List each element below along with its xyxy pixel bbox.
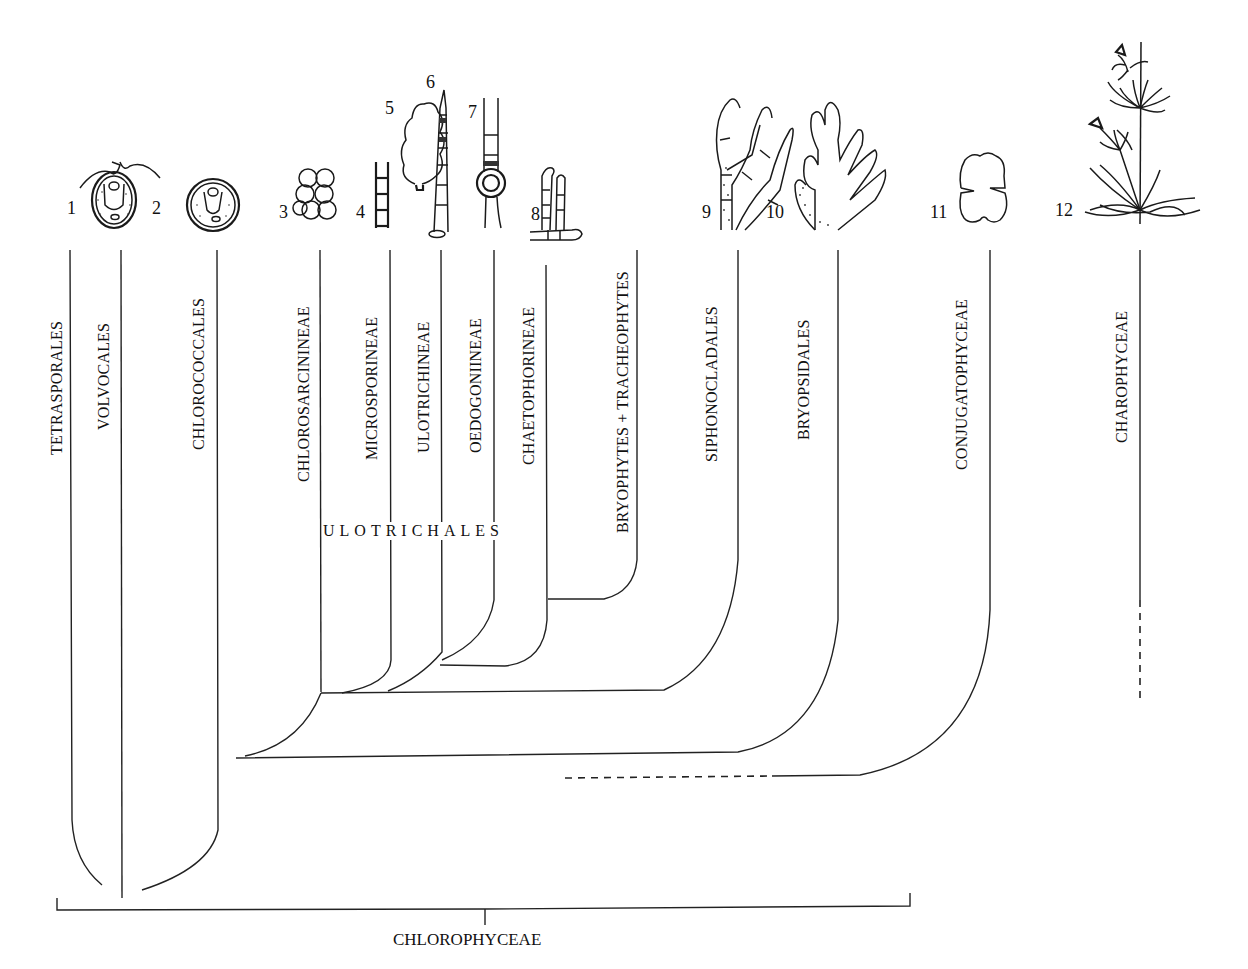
illustration-number-8: 8 xyxy=(531,204,540,225)
taxon-label-chaetophorineae: CHAETOPHORINEAE xyxy=(520,307,538,465)
group-label-chlorophyceae: CHLOROPHYCEAE xyxy=(393,930,541,950)
tree-branches xyxy=(57,250,1140,925)
illustration-number-1: 1 xyxy=(67,198,76,219)
taxon-label-microsporineae: MICROSPORINEAE xyxy=(363,317,381,460)
illustration-number-10: 10 xyxy=(766,202,784,223)
illustration-chlamydomonas-icon xyxy=(80,162,160,228)
branch-chlorosarcinineae xyxy=(320,250,321,692)
illustration-number-6: 6 xyxy=(426,72,435,93)
illustration-number-7: 7 xyxy=(468,102,477,123)
illustration-chlorococcum-icon xyxy=(187,179,239,231)
taxon-label-charophyceae: CHAROPHYCEAE xyxy=(1113,311,1131,443)
illustration-number-4: 4 xyxy=(356,202,365,223)
illustration-chara-icon xyxy=(1085,42,1200,224)
illustration-number-11: 11 xyxy=(930,202,947,223)
branch-oedo-chaeto-link xyxy=(440,665,505,666)
group-label-ulotrichales: ULOTRICHALES xyxy=(322,522,505,540)
branch-ulotrichineae xyxy=(388,250,442,691)
illustration-chlorosarcina-icon xyxy=(293,169,336,219)
illustration-oedogonium-icon xyxy=(477,98,505,228)
branch-volvocales xyxy=(121,250,122,898)
taxon-label-bryophytes-tracheophytes: BRYOPHYTES + TRACHEOPHYTES xyxy=(614,271,632,533)
chlorophyceae-bracket xyxy=(57,893,910,910)
branch-oedogoniineae xyxy=(442,250,494,660)
taxon-label-conjugatophyceae: CONJUGATOPHYCEAE xyxy=(953,299,971,470)
taxon-label-chlorosarcinineae: CHLOROSARCININEAE xyxy=(295,306,313,482)
branch-ulvophyceae-stem xyxy=(245,693,321,756)
illustration-number-12: 12 xyxy=(1055,200,1073,221)
taxon-label-oedogoniineae: OEDOGONIINEAE xyxy=(467,318,485,453)
illustration-bryopsidales-icon xyxy=(795,103,886,231)
taxon-label-bryopsidales: BRYOPSIDALES xyxy=(795,319,813,440)
illustration-desmid-icon xyxy=(960,153,1007,222)
illustration-microspora-icon xyxy=(376,162,388,228)
taxon-label-tetrasporales: TETRASPORALES xyxy=(48,321,66,455)
taxon-label-siphonocladales: SIPHONOCLADALES xyxy=(703,306,721,462)
branch-conjugatophyceae-dashed xyxy=(565,776,772,778)
taxon-label-chlorococcales: CHLOROCOCCALES xyxy=(190,298,208,450)
illustration-number-3: 3 xyxy=(279,202,288,223)
illustration-number-2: 2 xyxy=(152,198,161,219)
illustration-number-5: 5 xyxy=(385,98,394,119)
illustration-number-9: 9 xyxy=(702,202,711,223)
taxon-label-ulotrichineae: ULOTRICHINEAE xyxy=(415,322,433,453)
taxon-label-volvocales: VOLVOCALES xyxy=(95,323,113,430)
